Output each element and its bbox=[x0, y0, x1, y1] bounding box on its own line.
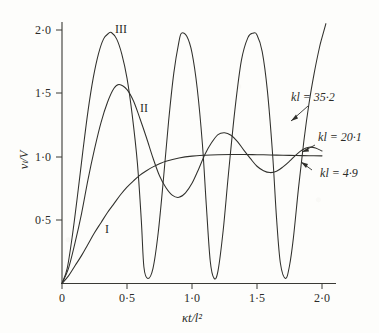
x-tick-label-0-5: 0·5 bbox=[119, 291, 135, 305]
y-tick-label-1-5: 1·5 bbox=[35, 86, 51, 100]
y-tick-label-2-0: 2·0 bbox=[35, 23, 51, 37]
annotation-kl-35-2: kl = 35·2 bbox=[291, 90, 335, 121]
y-tick-label-0-5: 0·5 bbox=[35, 213, 51, 227]
curve-series-III bbox=[62, 24, 326, 284]
y-tick-label-1-0: 1·0 bbox=[35, 150, 51, 164]
curve-series-I bbox=[62, 154, 322, 283]
x-tick-label-1-5: 1·5 bbox=[249, 291, 265, 305]
curves-group bbox=[62, 24, 326, 284]
x-tick-label-1-0: 1·0 bbox=[184, 291, 200, 305]
x-tick-label-2-0: 2·0 bbox=[314, 291, 330, 305]
line-chart: 2·0 1·5 1·0 0·5 0 0·5 1·0 1·5 2·0 vₗ/V κ… bbox=[0, 0, 379, 333]
y-tick-labels: 2·0 1·5 1·0 0·5 bbox=[35, 23, 51, 227]
annotation-kl-4-9: kl = 4·9 bbox=[301, 162, 358, 180]
annotation-kl-35-2-label: kl = 35·2 bbox=[291, 90, 335, 104]
curve-label-III: III bbox=[115, 22, 127, 36]
x-axis-ticks bbox=[62, 284, 322, 290]
annotation-kl-4-9-label: kl = 4·9 bbox=[320, 166, 358, 180]
annotation-kl-20-1: kl = 20·1 bbox=[302, 130, 362, 152]
x-axis-title: κt/l² bbox=[182, 311, 202, 325]
x-tick-labels: 0 0·5 1·0 1·5 2·0 bbox=[59, 291, 330, 305]
y-axis-title: vₗ/V bbox=[17, 149, 31, 169]
curve-series-II bbox=[62, 84, 322, 283]
y-axis-ticks bbox=[56, 30, 62, 220]
annotation-arrowhead-4-9 bbox=[301, 162, 308, 168]
figure-container: 2·0 1·5 1·0 0·5 0 0·5 1·0 1·5 2·0 vₗ/V κ… bbox=[0, 0, 379, 333]
curve-label-II: II bbox=[140, 101, 148, 115]
curve-label-I: I bbox=[105, 222, 109, 236]
x-tick-label-0: 0 bbox=[59, 291, 65, 305]
annotation-kl-20-1-label: kl = 20·1 bbox=[318, 130, 362, 144]
